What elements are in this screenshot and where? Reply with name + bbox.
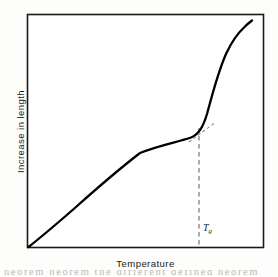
tg-subscript-text: g [209, 227, 213, 235]
thermal-expansion-figure: Increase in length Temperature Tg [0, 0, 278, 277]
x-axis-label: Temperature [27, 258, 264, 269]
y-axis-label: Increase in length [15, 67, 26, 197]
clipped-caption-strip: heorem heorem the different defined heor… [0, 270, 278, 277]
chart-canvas [0, 0, 278, 277]
figure-page: Increase in length Temperature Tg heorem… [0, 0, 278, 277]
clipped-caption-text: heorem heorem the different defined heor… [4, 270, 259, 277]
tg-annotation: Tg [203, 222, 212, 235]
